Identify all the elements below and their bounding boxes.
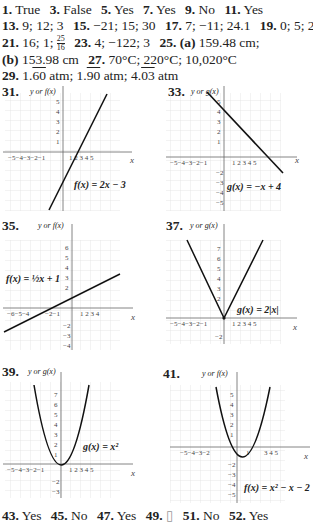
answer-value: Yes — [22, 508, 42, 523]
answer-number: 52. — [229, 508, 246, 523]
svg-text:−5−4−3−2−1: −5−4−3−2−1 — [170, 159, 208, 167]
svg-text:−5−4−3−2−1: −5−4−3−2−1 — [170, 320, 208, 328]
svg-text:4: 4 — [217, 108, 221, 116]
svg-text:7: 7 — [54, 391, 58, 399]
svg-text:−6−5−4: −6−5−4 — [7, 310, 30, 318]
answers-last-line: 43. Yes 45. No 47. Yes 49. ▯ 51. No 52. … — [2, 508, 274, 524]
graph-37: −5−4−3−2−1 1 2 3 4 5 x 76 54 32 −2 g(x) … — [166, 224, 297, 344]
svg-text:−3: −3 — [216, 179, 224, 187]
function-label: f(x) = 2x − 3 — [74, 179, 126, 191]
svg-text:−2: −2 — [216, 169, 224, 177]
svg-text:−2: −2 — [228, 461, 236, 469]
svg-text:−3: −3 — [52, 488, 60, 496]
graph-31: −5−4−3−2−1 1 2 3 4 5 x 54 32 1 f(x) = 2x… — [3, 86, 134, 211]
function-label: f(x) = x² − x − 2 — [244, 482, 310, 494]
svg-text:−3: −3 — [63, 332, 71, 340]
function-label: g(x) = 2|x| — [236, 304, 279, 316]
answer-value: Yes — [117, 508, 137, 523]
answer-number: 45. — [51, 508, 68, 523]
calculator-icon: ▯ — [166, 508, 173, 523]
svg-text:x: x — [303, 451, 308, 461]
svg-text:2: 2 — [230, 421, 234, 429]
svg-text:3: 3 — [65, 274, 69, 282]
svg-text:−2: −2 — [63, 322, 71, 330]
svg-text:x: x — [129, 155, 134, 165]
svg-text:1: 1 — [56, 138, 60, 146]
svg-text:1 2 3 4 5: 1 2 3 4 5 — [232, 159, 257, 167]
svg-text:−5−4−3−2−1: −5−4−3−2−1 — [8, 154, 46, 162]
answer-number: 51. — [183, 508, 200, 523]
answer-value: No — [71, 508, 88, 523]
svg-text:6: 6 — [217, 255, 221, 263]
svg-text:−3: −3 — [228, 471, 236, 479]
function-label: g(x) = −x + 4 — [226, 181, 281, 193]
svg-text:3: 3 — [217, 118, 221, 126]
svg-text:1: 1 — [54, 451, 58, 459]
answer-number: 49. — [146, 508, 163, 523]
svg-text:5: 5 — [54, 411, 58, 419]
svg-text:2: 2 — [54, 441, 58, 449]
svg-text:x: x — [294, 155, 299, 165]
svg-text:1 2 3 4: 1 2 3 4 — [80, 310, 100, 318]
svg-text:4: 4 — [56, 108, 60, 116]
svg-text:x: x — [292, 322, 297, 332]
svg-text:3: 3 — [230, 411, 234, 419]
graph-39: −5−4−3−2−1 1 2 3 4 5 x 76 54 32 1 −2−3 g… — [3, 372, 135, 498]
svg-text:2: 2 — [217, 295, 221, 303]
graphs-canvas: −5−4−3−2−1 1 2 3 4 5 x 54 32 1 f(x) = 2x… — [0, 0, 313, 527]
svg-text:4: 4 — [54, 421, 58, 429]
svg-text:x: x — [130, 468, 135, 478]
function-label: f(x) = ½x + 1 — [6, 273, 60, 285]
graph-33: −5−4−3−2−1 1 2 3 4 5 x 54 32 1 −2−3 −4−5… — [166, 86, 299, 211]
svg-text:2: 2 — [217, 128, 221, 136]
graph-41: −5−4−3−2 1 3 4 5 x 54 32 1 −2−3 −4−5 f(x… — [170, 372, 310, 503]
svg-text:1 2 3 4 5: 1 2 3 4 5 — [232, 320, 257, 328]
svg-text:6: 6 — [54, 401, 58, 409]
answer-page: 1. True 3. False 5. Yes 7. Yes 9. No 11.… — [0, 0, 313, 527]
answer-value: No — [203, 508, 220, 523]
svg-text:1: 1 — [217, 138, 221, 146]
svg-text:−5−4−3−2: −5−4−3−2 — [180, 449, 210, 457]
svg-text:−2: −2 — [215, 333, 223, 341]
svg-text:7: 7 — [217, 245, 221, 253]
graph-35: −6−5−4 −2−1 1 2 3 4 x 65 43 2 −2−3 −4 f(… — [3, 224, 135, 350]
svg-text:4: 4 — [217, 275, 221, 283]
svg-text:−4: −4 — [228, 481, 236, 489]
function-label: g(x) = x² — [82, 441, 119, 453]
svg-text:3: 3 — [56, 118, 60, 126]
svg-text:−5: −5 — [228, 491, 236, 499]
svg-text:1 2 3 4 5: 1 2 3 4 5 — [69, 466, 94, 474]
svg-text:1: 1 — [230, 431, 234, 439]
svg-text:−4: −4 — [63, 342, 71, 350]
svg-text:5: 5 — [56, 98, 60, 106]
svg-text:5: 5 — [230, 391, 234, 399]
svg-text:5: 5 — [217, 265, 221, 273]
svg-text:6: 6 — [65, 244, 69, 252]
svg-text:3: 3 — [54, 431, 58, 439]
svg-text:4: 4 — [65, 264, 69, 272]
answer-value: Yes — [249, 508, 269, 523]
svg-text:−2−1: −2−1 — [45, 310, 60, 318]
svg-text:3: 3 — [217, 285, 221, 293]
answer-number: 47. — [97, 508, 114, 523]
svg-text:−2: −2 — [52, 478, 60, 486]
svg-text:2: 2 — [65, 284, 69, 292]
svg-text:5: 5 — [65, 254, 69, 262]
svg-text:x: x — [130, 312, 135, 322]
answer-number: 43. — [2, 508, 19, 523]
svg-text:4: 4 — [230, 401, 234, 409]
svg-text:−4: −4 — [216, 189, 224, 197]
svg-text:−5−4−3−2−1: −5−4−3−2−1 — [7, 466, 45, 474]
svg-text:−5: −5 — [216, 199, 224, 207]
svg-text:3 4 5: 3 4 5 — [264, 449, 279, 457]
svg-text:2: 2 — [56, 128, 60, 136]
